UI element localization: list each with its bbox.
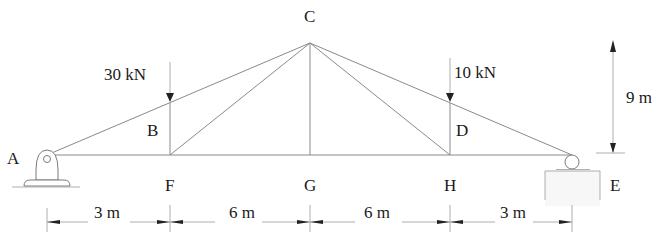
dimension-vertical-9m: 9 m <box>596 40 652 153</box>
dimension-label-GH: 6 m <box>364 203 390 222</box>
node-label-D: D <box>456 121 468 140</box>
dimension-label-HE: 3 m <box>500 203 526 222</box>
load-label-10kn: 10 kN <box>454 63 496 82</box>
node-label-E: E <box>610 176 620 195</box>
node-label-A: A <box>7 149 20 168</box>
roller-support-icon <box>545 155 600 206</box>
node-label-C: C <box>304 7 315 26</box>
arrow-down-icon <box>446 93 454 102</box>
arrow-down-icon <box>610 143 616 153</box>
arrow-down-icon <box>166 93 174 102</box>
member-FC <box>170 43 310 155</box>
truss-members <box>47 43 572 155</box>
node-label-F: F <box>165 176 174 195</box>
pin-support-icon <box>12 150 80 187</box>
dimension-label-9m: 9 m <box>626 88 652 107</box>
node-label-H: H <box>444 176 456 195</box>
load-label-30kn: 30 kN <box>104 65 146 84</box>
node-label-B: B <box>147 121 158 140</box>
load-10kn: 10 kN <box>446 58 496 102</box>
member-AC-top-left <box>47 43 310 155</box>
member-CH <box>310 43 450 155</box>
dimension-horizontal: 3 m 6 m 6 m 3 m <box>47 203 572 232</box>
node-label-G: G <box>304 176 316 195</box>
member-CE-top-right <box>310 43 572 155</box>
truss-diagram: 30 kN 10 kN C B D A F G H E 9 m <box>0 0 666 234</box>
dimension-label-AF: 3 m <box>94 203 120 222</box>
arrow-up-icon <box>610 40 616 52</box>
dimension-label-FG: 6 m <box>229 203 255 222</box>
load-30kn: 30 kN <box>104 62 174 102</box>
